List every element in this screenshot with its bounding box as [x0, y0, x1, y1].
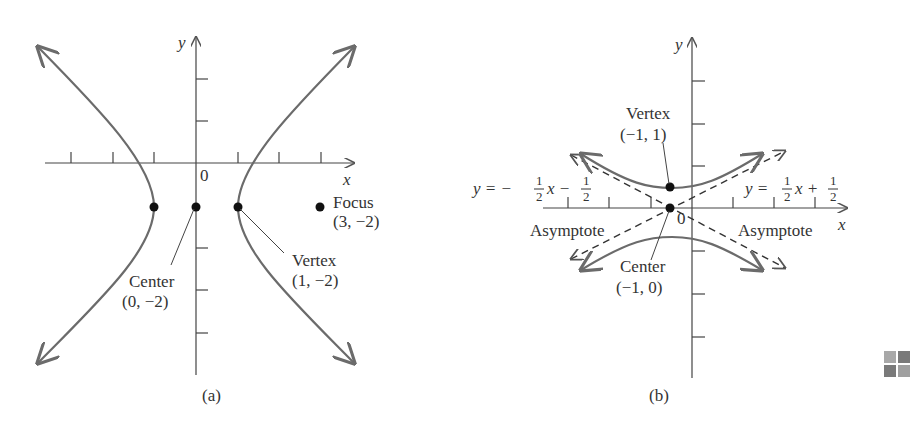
asymptote-right-label: Asymptote — [738, 221, 813, 240]
caption-a: (a) — [202, 386, 221, 405]
svg-text:2: 2 — [536, 189, 543, 204]
vertex-coords: (−1, 1) — [620, 125, 666, 144]
svg-text:1: 1 — [583, 173, 590, 188]
focus-coords: (3, −2) — [333, 212, 379, 231]
svg-text:x −: x − — [546, 179, 570, 198]
vertex-label: Vertex — [626, 104, 671, 123]
svg-text:1: 1 — [784, 173, 791, 188]
center-leader — [171, 209, 194, 265]
center-leader — [651, 211, 669, 260]
asymptote-right-equation: y = 1 2 x + 1 2 — [743, 173, 838, 204]
svg-text:2: 2 — [583, 189, 590, 204]
svg-text:y =: y = — [743, 179, 768, 198]
center-point — [666, 204, 675, 213]
svg-text:2: 2 — [830, 189, 837, 204]
x-axis-label: x — [837, 215, 846, 234]
origin-label: 0 — [200, 166, 209, 185]
center-point — [192, 203, 201, 212]
y-axis-label: y — [673, 35, 683, 54]
asymptote-left-label: Asymptote — [530, 221, 605, 240]
left-branch — [38, 47, 154, 363]
center-label: Center — [129, 272, 175, 291]
vertex-label: Vertex — [292, 251, 337, 270]
svg-text:y = −: y = − — [471, 179, 512, 198]
y-axis-label: y — [176, 33, 186, 52]
center-label: Center — [620, 257, 666, 276]
hyperbola-figures: y x 0 Focus (3, −2) Center (0, −2) Verte… — [0, 0, 918, 425]
vertex-leader — [663, 143, 669, 184]
panel-b: y x 0 Vertex (−1, 1) Center (−1, 0) Asym… — [471, 35, 847, 405]
center-coords: (0, −2) — [122, 292, 168, 311]
caption-b: (b) — [649, 386, 669, 405]
vertex-coords: (1, −2) — [292, 271, 338, 290]
svg-text:1: 1 — [536, 173, 543, 188]
focus-point — [316, 203, 325, 212]
focus-label: Focus — [333, 193, 374, 212]
origin-label: 0 — [677, 209, 686, 228]
grid-icon[interactable] — [884, 351, 910, 377]
y-ticks — [692, 81, 705, 337]
svg-text:1: 1 — [830, 173, 837, 188]
asymptote-left-equation: y = − 1 2 x − 1 2 — [471, 173, 591, 204]
svg-text:x +: x + — [794, 179, 818, 198]
center-coords: (−1, 0) — [616, 278, 662, 297]
vertex-point — [666, 183, 675, 192]
vertex-left-point — [150, 203, 159, 212]
vertex-leader — [240, 209, 284, 253]
x-axis-label: x — [342, 170, 351, 189]
svg-text:2: 2 — [784, 189, 791, 204]
panel-a: y x 0 Focus (3, −2) Center (0, −2) Verte… — [38, 33, 379, 405]
